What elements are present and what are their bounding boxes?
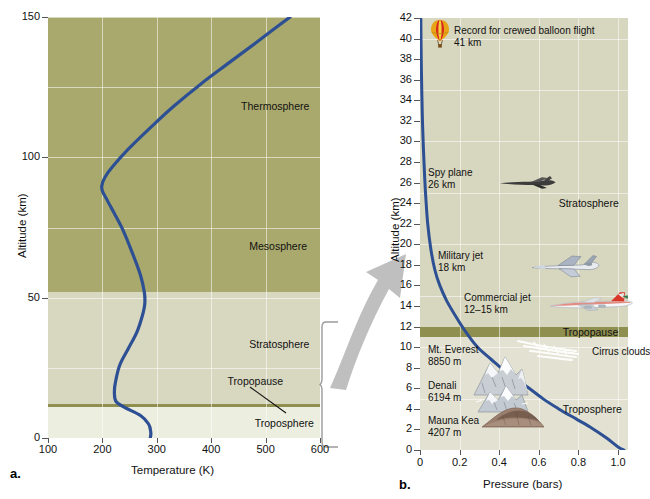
panel-b-y-tickmark [414,306,420,307]
panel-b-x-tickmark [420,450,421,455]
panel-a-x-axis-title: Temperature (K) [131,464,214,476]
annotation-commercial-jet-line2: 12–15 km [464,304,531,316]
annotation-maunakea-line2: 4207 m [428,427,479,439]
layer-label-mesosphere: Mesosphere [249,240,307,252]
panel-b-y-tick: 16 [384,278,412,290]
panel-b-y-tickmark [414,203,420,204]
military-jet-icon [528,253,600,279]
panel-b-y-tickmark [414,265,420,266]
panel-a-y-tickmark [42,298,48,299]
panel-b-x-tickmark [578,450,579,455]
layer-label-b-tropopause: Tropopause [563,326,619,338]
panel-a-y-tickmark [42,17,48,18]
panel-b-y-tick: 4 [384,402,412,414]
panel-a-x-tickmark [266,438,267,443]
layer-label-thermosphere: Thermosphere [241,100,309,112]
annotation-commercial-jet-line1: Commercial jet [464,292,531,304]
commercial-jet-icon [548,290,634,316]
annotation-balloon-line1: Record for crewed balloon flight [454,25,595,37]
panel-b-y-tick: 8 [384,361,412,373]
layer-label-stratosphere: Stratosphere [249,338,309,350]
panel-b-y-tick: 36 [384,73,412,85]
annotation-military-jet-line1: Military jet [438,250,483,262]
layer-label-b-troposphere: Troposphere [563,403,622,415]
annotation-everest-label: Mt. Everest8850 m [428,344,479,368]
annotation-denali-line1: Denali [428,380,461,392]
panel-b-y-tick: 32 [384,114,412,126]
panel-a-x-tickmark [48,438,49,443]
panel-b-x-tick: 0 [400,456,440,468]
panel-b-y-tickmark [414,347,420,348]
panel-b-y-tickmark [414,59,420,60]
panel-b-y-tickmark [414,368,420,369]
panel-b-y-tick: 42 [384,11,412,23]
panel-b-y-tick: 0 [384,443,412,455]
annotation-balloon-line2: 41 km [454,37,595,49]
panel-a-y-tick: 100 [6,150,40,162]
brown-mountain-icon [480,403,546,429]
panel-a-x-tick: 500 [246,443,286,455]
panel-b-y-tick: 40 [384,32,412,44]
annotation-spy-plane-line2: 26 km [428,179,472,191]
panel-b-y-tickmark [414,18,420,19]
panel-b-y-tickmark [414,224,420,225]
panel-a-y-tick: 50 [6,291,40,303]
panel-a-x-tick: 600 [300,443,340,455]
panel-b-x-tickmark [618,450,619,455]
panel-b-y-tick: 38 [384,52,412,64]
panel-b-x-tick: 0.8 [558,456,598,468]
annotation-everest-line2: 8850 m [428,356,479,368]
panel-b-y-tickmark [414,141,420,142]
panel-a-x-tickmark [320,438,321,443]
panel-b-x-tick: 0.2 [440,456,480,468]
panel-a-x-tick: 100 [28,443,68,455]
layer-label-b-stratosphere: Stratosphere [559,197,619,209]
panel-b-y-tickmark [414,327,420,328]
annotation-maunakea-label: Mauna Kea4207 m [428,415,479,439]
spy-plane-icon [498,173,558,191]
panel-b-x-tick: 0.4 [479,456,519,468]
panel-b-y-tick: 30 [384,134,412,146]
annotation-cirrus-line1: Cirrus clouds [592,346,650,358]
panel-b-y-tickmark [414,244,420,245]
panel-b-x-axis-title: Pressure (bars) [483,478,562,490]
annotation-denali-line2: 6194 m [428,392,461,404]
panel-b-y-tickmark [414,162,420,163]
layer-label-tropopause: Tropopause [228,375,284,387]
panel-b-y-tick: 2 [384,422,412,434]
panel-b-y-tickmark [414,39,420,40]
panel-b-y-tick: 12 [384,320,412,332]
panel-a-y-axis-title: Altitude (km) [16,193,28,258]
panel-a-y-tick: 150 [6,10,40,22]
panel-b-x-tick: 1.0 [598,456,638,468]
panel-a-x-tickmark [102,438,103,443]
panel-b-y-tick: 22 [384,217,412,229]
hot-air-balloon-icon [430,19,450,49]
panel-b-y-tickmark [414,388,420,389]
panel-a-y-tickmark [42,157,48,158]
panel-a-x-tick: 200 [82,443,122,455]
annotation-maunakea-line1: Mauna Kea [428,415,479,427]
panel-b-x-tickmark [539,450,540,455]
panel-b-x-tickmark [460,450,461,455]
panel-a-letter: a. [10,466,21,481]
panel-b-x-tickmark [499,450,500,455]
panel-b-y-tickmark [414,80,420,81]
panel-b-y-tick: 18 [384,258,412,270]
panel-a-x-tickmark [157,438,158,443]
annotation-spy-plane-label: Spy plane26 km [428,167,472,191]
panel-a-x-tick: 400 [191,443,231,455]
panel-b-y-tick: 14 [384,299,412,311]
panel-a-x-tick: 300 [137,443,177,455]
annotation-balloon-label: Record for crewed balloon flight41 km [454,25,595,49]
panel-b-letter: b. [399,477,411,492]
panel-b-y-tickmark [414,409,420,410]
panel-b-y-tick: 10 [384,340,412,352]
panel-a-x-tickmark [211,438,212,443]
annotation-commercial-jet-label: Commercial jet12–15 km [464,292,531,316]
panel-b-y-tickmark [414,100,420,101]
tropopause-leader-line [250,387,310,419]
panel-b-y-tick: 34 [384,93,412,105]
annotation-cirrus-label: Cirrus clouds [592,346,650,358]
